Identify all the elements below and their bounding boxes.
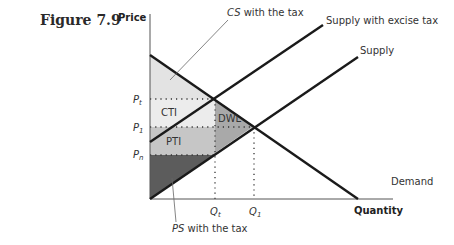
ps-annotation-italic: PS [172,223,185,234]
q1-sub: 1 [257,211,261,219]
price-tick-pt: Pt [133,94,142,107]
pn-sub: n [139,154,143,162]
supply-label: Supply [360,45,394,56]
y-axis-label: Price [118,12,147,23]
qt-sub: t [218,211,221,219]
p1-sub: 1 [139,127,143,135]
price-tick-p1: P1 [133,122,144,135]
demand-label: Demand [391,176,433,187]
cs-annotation-italic: CS [227,7,241,18]
cs-annotation: CS with the tax [227,7,304,18]
pti-area [150,127,215,155]
quantity-tick-qt: Qt [210,206,221,219]
q1-main: Q [249,206,257,217]
ps-annotation-rest: with the tax [184,223,247,234]
pt-sub: t [139,99,142,107]
dwl-label: DWL [218,113,242,124]
x-axis-label: Quantity [354,205,403,216]
ps-annotation: PS with the tax [172,223,248,234]
cs-leader-line [170,20,228,80]
supply-with-tax-label: Supply with excise tax [326,15,438,26]
cs-annotation-rest: with the tax [241,7,304,18]
surplus-diagram: Price Quantity Supply with excise tax Su… [0,0,454,245]
quantity-tick-q1: Q1 [249,206,261,219]
dwl-area [215,99,254,153]
cti-label: CTI [161,107,177,118]
price-tick-pn: Pn [133,149,143,162]
qt-main: Q [210,206,218,217]
pti-label: PTI [166,136,181,147]
ps-leader-line [172,178,176,222]
